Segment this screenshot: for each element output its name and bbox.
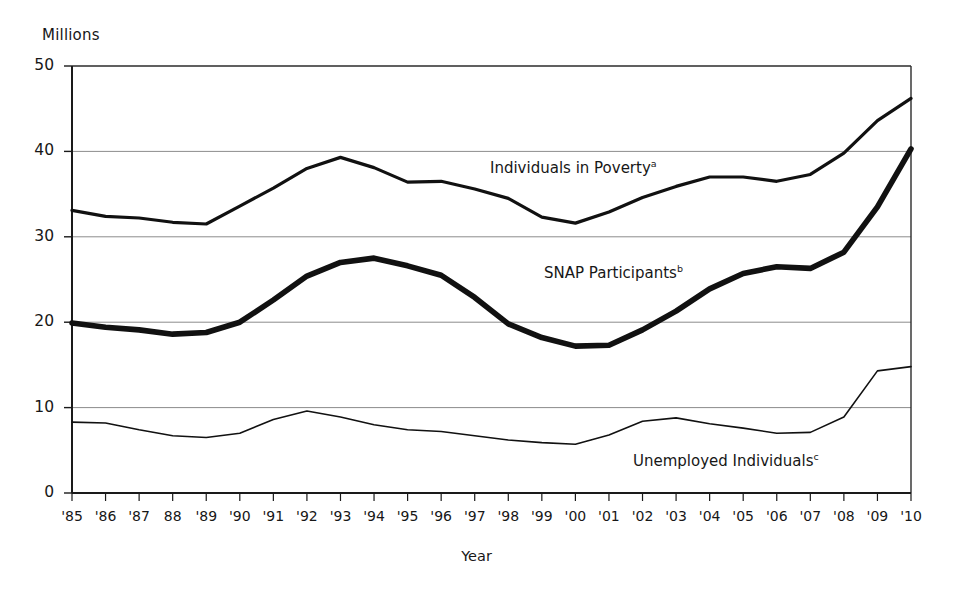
series-line-unemployed-individuals bbox=[72, 367, 911, 445]
poverty-series-label-footnote: a bbox=[651, 158, 657, 169]
y-tick-label-30: 30 bbox=[8, 227, 54, 245]
y-tick-label-10: 10 bbox=[8, 398, 54, 416]
plot-frame bbox=[72, 66, 911, 493]
x-tick-marks-group bbox=[72, 493, 911, 501]
poverty-series-label: Individuals in Povertya bbox=[490, 159, 657, 177]
snap-series-label: SNAP Participantsb bbox=[544, 264, 683, 282]
gridlines-group bbox=[72, 151, 911, 407]
snap-series-label-footnote: b bbox=[677, 263, 683, 274]
y-tick-label-20: 20 bbox=[8, 312, 54, 330]
y-tick-label-0: 0 bbox=[8, 483, 54, 501]
unemployed-series-label-footnote: c bbox=[813, 451, 818, 462]
y-tick-label-40: 40 bbox=[8, 141, 54, 159]
poverty-series-label-text: Individuals in Poverty bbox=[490, 159, 651, 177]
chart-figure: Millions 01020304050 '85'86'8788'89'90'9… bbox=[0, 0, 953, 598]
snap-series-label-text: SNAP Participants bbox=[544, 264, 677, 282]
unemployed-series-label-text: Unemployed Individuals bbox=[633, 452, 813, 470]
y-tick-marks-group bbox=[64, 66, 72, 493]
x-axis-title: Year bbox=[0, 548, 953, 564]
x-tick-label-2010: '10 bbox=[891, 508, 931, 524]
y-tick-label-50: 50 bbox=[8, 56, 54, 74]
unemployed-series-label: Unemployed Individualsc bbox=[633, 452, 819, 470]
data-series-group bbox=[72, 98, 911, 444]
